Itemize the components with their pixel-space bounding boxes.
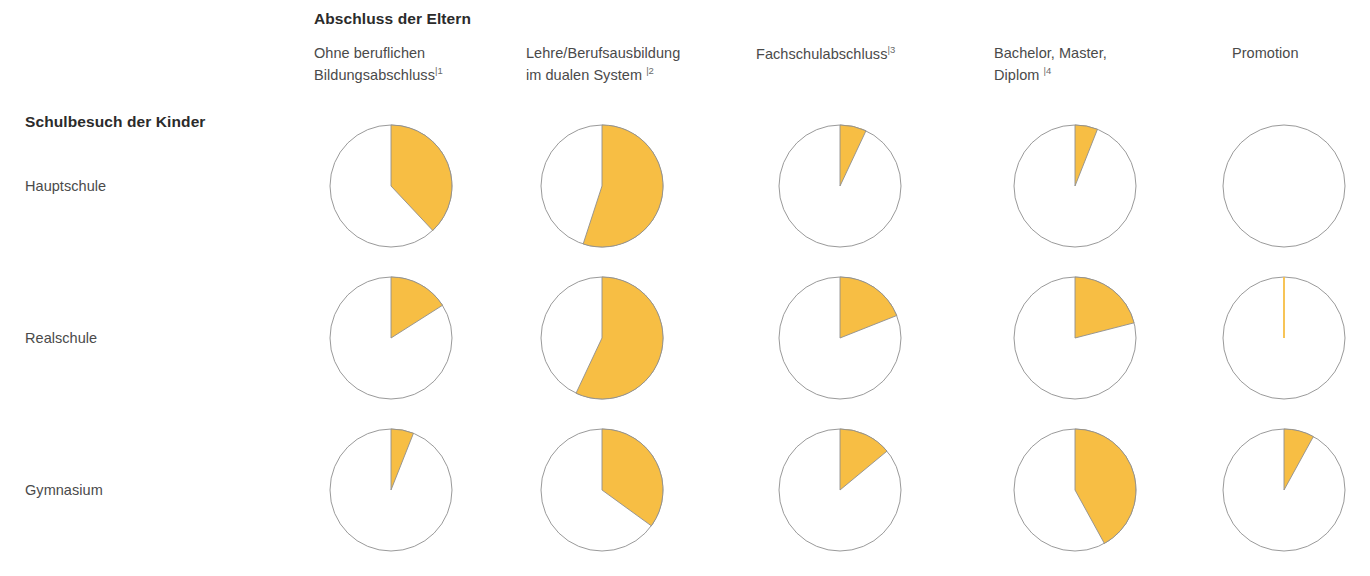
- column-header-2-footnote: |3: [887, 44, 895, 55]
- pie-svg: [327, 274, 455, 402]
- pie-chart-gymnasium-col4[interactable]: [1220, 426, 1348, 554]
- pie-chart-hauptschule-col2[interactable]: [776, 122, 904, 250]
- pie-chart-realschule-col3[interactable]: [1011, 274, 1139, 402]
- pie-svg: [1220, 122, 1348, 250]
- pie-svg: [776, 122, 904, 250]
- row-header-gymnasium: Gymnasium: [25, 482, 103, 498]
- pie-chart-realschule-col4[interactable]: [1220, 274, 1348, 402]
- column-header-0-footnote: |1: [435, 65, 443, 76]
- pie-svg: [1220, 426, 1348, 554]
- column-header-0-line2: Bildungsabschluss: [314, 66, 435, 82]
- column-header-1-line2: im dualen System: [526, 66, 642, 82]
- pie-svg: [538, 426, 666, 554]
- pie-svg: [327, 122, 455, 250]
- pie-chart-realschule-col2[interactable]: [776, 274, 904, 402]
- pie-chart-hauptschule-col4[interactable]: [1220, 122, 1348, 250]
- column-header-1-line1: Lehre/Berufsausbildung: [526, 45, 680, 61]
- pie-svg: [776, 426, 904, 554]
- pie-chart-realschule-col1[interactable]: [538, 274, 666, 402]
- pie-chart-gymnasium-col1[interactable]: [538, 426, 666, 554]
- column-header-1-footnote: |2: [646, 65, 654, 76]
- pie-svg: [776, 274, 904, 402]
- pie-svg: [1220, 274, 1348, 402]
- column-header-4: Promotion: [1232, 43, 1370, 64]
- column-header-0-line1: Ohne beruflichen: [314, 45, 425, 61]
- pie-chart-hauptschule-col3[interactable]: [1011, 122, 1139, 250]
- row-header-realschule: Realschule: [25, 330, 97, 346]
- column-header-4-line1: Promotion: [1232, 45, 1299, 61]
- pie-svg: [538, 274, 666, 402]
- pie-chart-gymnasium-col2[interactable]: [776, 426, 904, 554]
- pie-svg: [1011, 274, 1139, 402]
- pie-outline: [1223, 125, 1345, 247]
- pie-chart-hauptschule-col0[interactable]: [327, 122, 455, 250]
- pie-chart-realschule-col0[interactable]: [327, 274, 455, 402]
- pie-svg: [1011, 122, 1139, 250]
- column-header-3: Bachelor, Master, Diplom |4: [994, 43, 1199, 85]
- pie-chart-grid: [0, 0, 1370, 576]
- column-header-2-line1: Fachschulabschluss: [756, 46, 887, 62]
- pie-chart-hauptschule-col1[interactable]: [538, 122, 666, 250]
- column-header-3-footnote: |4: [1044, 65, 1052, 76]
- column-header-3-line1: Bachelor, Master,: [994, 45, 1107, 61]
- pie-matrix-figure: Abschluss der Eltern Ohne beruflichen Bi…: [0, 0, 1370, 576]
- columns-group-title: Abschluss der Eltern: [314, 10, 471, 28]
- pie-chart-gymnasium-col3[interactable]: [1011, 426, 1139, 554]
- row-header-hauptschule: Hauptschule: [25, 178, 106, 194]
- column-header-2: Fachschulabschluss|3: [756, 43, 971, 64]
- pie-svg: [538, 122, 666, 250]
- column-header-0: Ohne beruflichen Bildungsabschluss|1: [314, 43, 514, 85]
- pie-svg: [1011, 426, 1139, 554]
- column-header-1: Lehre/Berufsausbildung im dualen System …: [526, 43, 741, 85]
- pie-svg: [327, 426, 455, 554]
- pie-chart-gymnasium-col0[interactable]: [327, 426, 455, 554]
- rows-group-title: Schulbesuch der Kinder: [25, 113, 206, 131]
- column-header-3-line2: Diplom: [994, 66, 1039, 82]
